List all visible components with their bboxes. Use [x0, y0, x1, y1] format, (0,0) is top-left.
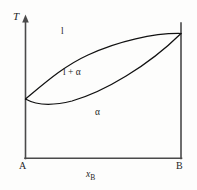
phase-diagram-figure: T xB A B l l + α α: [0, 0, 197, 190]
y-axis-group: [22, 15, 29, 159]
region-label-alpha: α: [95, 108, 100, 118]
x-axis-tick-label-a: A: [19, 161, 26, 171]
arrow-up-icon: [22, 15, 29, 23]
phase-diagram-canvas: [0, 0, 197, 190]
region-label-liquid-plus-alpha: l + α: [63, 68, 81, 78]
x-axis-label: xB: [86, 170, 95, 181]
y-axis-label: T: [13, 11, 19, 22]
region-label-liquid: l: [61, 27, 64, 37]
x-axis-label-subscript: B: [90, 173, 95, 182]
x-axis-tick-label-b: B: [176, 161, 183, 171]
solidus-curve: [26, 34, 182, 105]
